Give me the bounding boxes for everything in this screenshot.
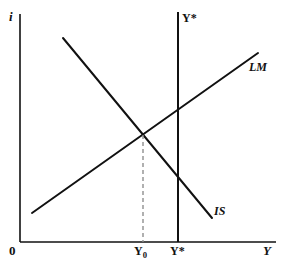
potential-output-top-label: Y* [182, 12, 197, 24]
x-axis-label: Y [263, 244, 271, 257]
plot-canvas [0, 0, 282, 267]
y-axis-label: i [9, 10, 13, 23]
potential-output-tick-label: Y* [170, 245, 185, 257]
equilibrium-output-tick-subscript: 0 [143, 250, 147, 260]
is-lm-figure: i Y* LM IS 0 Y0 Y* Y [0, 0, 282, 267]
is-curve [63, 38, 212, 218]
equilibrium-output-tick-label: Y0 [134, 245, 147, 260]
equilibrium-output-tick-base: Y [134, 244, 143, 258]
is-curve-label: IS [214, 205, 225, 217]
potential-output-tick-star: * [179, 244, 185, 258]
lm-curve [32, 53, 258, 213]
lm-curve-label: LM [249, 61, 267, 73]
origin-label: 0 [9, 244, 16, 257]
potential-output-tick-base: Y [170, 244, 179, 258]
